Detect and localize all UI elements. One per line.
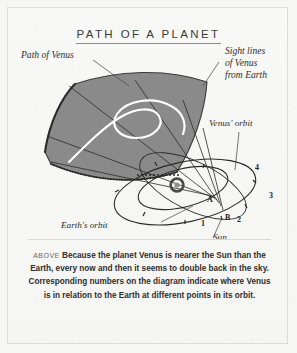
- caption-line-5: to the Earth at different points in its …: [94, 291, 255, 300]
- sky-patch: [45, 72, 207, 179]
- page-root: PATH OF A PLANET: [0, 0, 297, 353]
- caption-above-label: ABOVE: [33, 252, 60, 259]
- label-sight-lines-3: from Earth: [225, 69, 267, 80]
- caption-line-1: Because the planet Venus is nearer the: [62, 251, 214, 260]
- venus-position-A: A: [207, 195, 213, 204]
- planet-path-diagram: Path of Venus Sight lines of Venus from …: [7, 40, 290, 240]
- label-earths-orbit: Earth's orbit: [60, 220, 108, 230]
- venus-position-B: B: [225, 213, 231, 222]
- earth-position-2: 2: [237, 215, 241, 224]
- label-sight-lines-2: of Venus: [225, 57, 258, 68]
- earth-position-3: 3: [269, 191, 273, 200]
- sun-symbol: [171, 179, 184, 192]
- earth-position-4: 4: [255, 163, 259, 172]
- label-path-of-venus: Path of Venus: [20, 49, 74, 60]
- label-venus-orbit: Venus' orbit: [209, 118, 253, 128]
- label-sight-lines-1: Sight lines: [225, 45, 266, 56]
- earth-position-1: 1: [201, 219, 205, 228]
- figure-caption: ABOVE Because the planet Venus is nearer…: [28, 249, 271, 302]
- caption-divider: [28, 239, 271, 240]
